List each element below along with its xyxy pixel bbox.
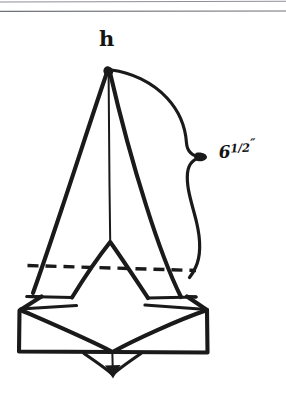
scanned-page: h 61/2″	[0, 0, 286, 395]
bottom-arrow-right-barb	[113, 354, 141, 375]
top-rule-lower	[0, 11, 286, 12]
base-inner-vee	[21, 310, 208, 352]
dimension-label: 61/2″	[218, 137, 256, 161]
bottom-arrow-left-barb	[84, 354, 113, 375]
brace-cusp	[194, 152, 207, 161]
top-rules	[0, 1, 286, 11]
center-vertical-edge	[109, 73, 111, 242]
base-box	[19, 297, 208, 353]
brace-lower-arm	[187, 158, 202, 278]
apex-label: h	[99, 28, 114, 49]
right-slant-edge	[110, 72, 181, 297]
dimension-whole-number: 6	[218, 141, 231, 162]
top-rule-upper	[0, 1, 286, 2]
dimension-unit-symbol: ″	[250, 136, 256, 150]
brace-upper-arm	[112, 70, 203, 157]
dimension-fraction: 1/2	[230, 141, 250, 156]
sketch-canvas	[0, 0, 286, 395]
